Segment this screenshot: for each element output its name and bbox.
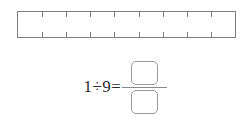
denominator-answer-box[interactable] bbox=[131, 90, 158, 114]
fraction-bar-segments bbox=[18, 12, 235, 37]
tick-mark-bottom-1 bbox=[42, 32, 43, 37]
tick-mark-top-3 bbox=[90, 12, 91, 17]
fraction-bar-model bbox=[17, 11, 236, 38]
tick-mark-top-6 bbox=[163, 12, 164, 17]
tick-mark-top-8 bbox=[211, 12, 212, 17]
tick-mark-bottom-6 bbox=[163, 32, 164, 37]
fraction-bar-line bbox=[122, 87, 167, 88]
tick-mark-bottom-3 bbox=[90, 32, 91, 37]
tick-mark-bottom-2 bbox=[66, 32, 67, 37]
tick-mark-top-1 bbox=[42, 12, 43, 17]
equation-expression: 1÷9= bbox=[84, 78, 122, 96]
tick-mark-top-4 bbox=[114, 12, 115, 17]
tick-mark-top-2 bbox=[66, 12, 67, 17]
equation-row: 1÷9= bbox=[0, 55, 251, 119]
tick-mark-bottom-5 bbox=[139, 32, 140, 37]
fraction-answer bbox=[122, 61, 167, 114]
tick-mark-bottom-4 bbox=[114, 32, 115, 37]
tick-mark-top-5 bbox=[139, 12, 140, 17]
tick-mark-top-7 bbox=[187, 12, 188, 17]
tick-mark-bottom-7 bbox=[187, 32, 188, 37]
tick-mark-bottom-8 bbox=[211, 32, 212, 37]
numerator-answer-box[interactable] bbox=[131, 61, 158, 85]
